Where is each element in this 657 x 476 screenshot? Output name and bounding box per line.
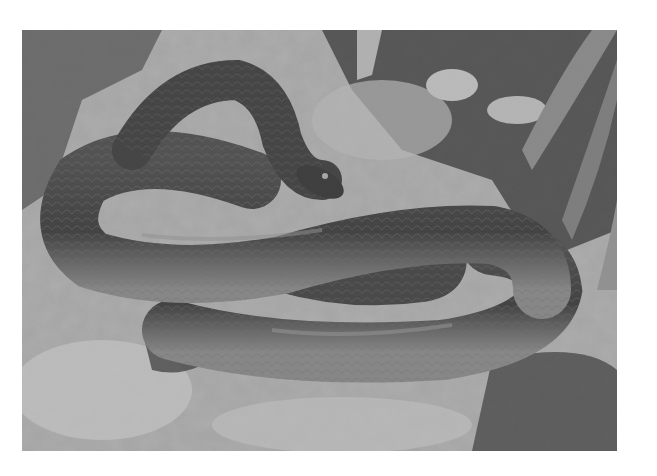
snake-photograph: Black-and-white photograph of a glossy, … bbox=[22, 30, 617, 451]
